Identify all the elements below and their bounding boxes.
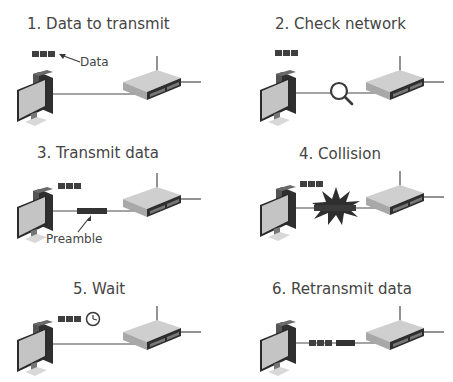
data-label: Data [80,55,109,69]
network-switch-icon [123,306,201,350]
data-blocks-icon [275,50,298,56]
step-5-panel: 5. Wait [0,254,226,381]
step-3-illustration [0,127,226,254]
data-blocks-icon [300,181,323,187]
step-4-panel: 4. Collision [226,127,452,254]
data-blocks-icon [58,316,81,322]
step-2-illustration [226,0,453,127]
step-3-panel: 3. Transmit data Preamble [0,127,226,254]
computer-icon [260,185,296,241]
step-4-illustration [226,127,453,254]
network-switch-icon [366,306,444,350]
preamble-frame-icon [336,340,355,346]
step-5-illustration [0,254,226,382]
clock-icon [87,313,100,326]
step-6-panel: 6. Retransmit data [226,254,452,381]
data-blocks-icon [58,183,81,189]
step-6-illustration [226,254,453,382]
arrow-icon [78,215,91,232]
step-1-panel: 1. Data to transmit Data [0,0,226,127]
computer-icon [260,320,296,376]
arrow-icon [59,54,80,62]
preamble-label: Preamble [46,232,102,246]
step-1-illustration [0,0,226,127]
preamble-frame-icon [77,208,107,214]
network-switch-icon [123,173,201,217]
computer-icon [17,320,53,376]
data-blocks-icon [309,340,332,346]
computer-icon [17,70,53,126]
network-switch-icon [366,56,444,100]
network-switch-icon [123,56,201,100]
data-blocks-icon [32,51,55,57]
step-2-panel: 2. Check network [226,0,452,127]
collision-burst-icon [312,187,360,225]
network-switch-icon [366,171,444,215]
computer-icon [260,70,296,126]
